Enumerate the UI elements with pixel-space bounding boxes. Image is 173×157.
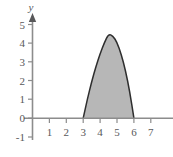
- chart-figure: y 5 4 3 2 1 0 -1 1 2 3 4 5 6 7: [0, 0, 173, 157]
- chart-svg: y 5 4 3 2 1 0 -1 1 2 3 4 5 6 7: [0, 0, 173, 157]
- x-tick-label-6: 6: [131, 126, 137, 138]
- y-tick-label-0: 0: [20, 112, 26, 124]
- y-tick-label-4: 4: [20, 37, 26, 49]
- x-tick-label-4: 4: [97, 126, 103, 138]
- y-tick-label-3: 3: [20, 56, 26, 68]
- y-axis-arrow-icon: [29, 13, 36, 22]
- x-tick-label-5: 5: [114, 126, 120, 138]
- x-tick-label-1: 1: [47, 126, 53, 138]
- x-tick-label-3: 3: [80, 126, 86, 138]
- y-tick-label-2: 2: [20, 75, 26, 87]
- x-tick-label-2: 2: [64, 126, 70, 138]
- y-axis-label: y: [28, 1, 34, 13]
- y-tick-label-1: 1: [20, 93, 26, 105]
- x-tick-label-7: 7: [148, 126, 154, 138]
- y-tick-label-minus1: -1: [16, 131, 25, 143]
- y-tick-label-5: 5: [20, 19, 26, 31]
